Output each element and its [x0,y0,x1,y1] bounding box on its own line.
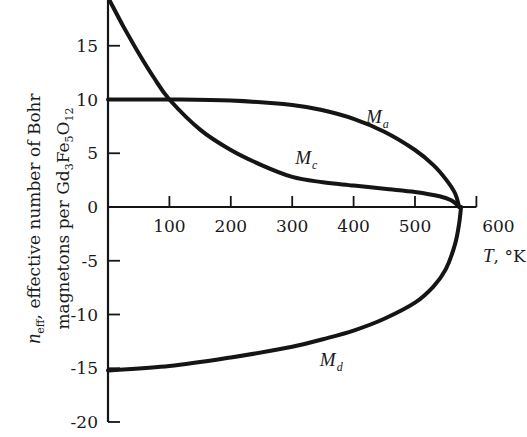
curve-label-m-d: Md [319,349,344,374]
y-axis-label: neff, effective number of Bohr magnetons… [22,0,102,437]
y-var-sub: eff [34,319,47,333]
x-var: T [483,245,494,266]
formula-o: O [53,121,73,135]
x-tick-label: 300 [276,216,308,236]
y-var: n [22,334,44,344]
x-unit: , °K [494,246,526,266]
curves [108,0,461,370]
y-axis-label-line1: neff, effective number of Bohr [22,0,52,437]
formula-fe: Fe [53,142,73,163]
x-axis-label: T, °K [483,245,526,267]
formula-sub-gd: 3 [63,163,76,170]
formula-sub-fe: 5 [63,135,76,142]
curve-label-m-c: Mc [294,147,318,172]
x-tick-label: 600 [482,216,514,236]
x-tick-label: 200 [215,216,247,236]
x-tick-label: 500 [399,216,431,236]
x-tick-label: 100 [153,216,185,236]
axes [108,0,476,422]
y-label-text: , effective number of Bohr [24,93,44,319]
y-axis-label-line2: magnetons per Gd3Fe5O12 [52,0,81,437]
formula-sub-o: 12 [63,107,76,121]
x-tick-label: 400 [337,216,369,236]
y-label-formula-pre: magnetons per Gd [53,170,73,329]
